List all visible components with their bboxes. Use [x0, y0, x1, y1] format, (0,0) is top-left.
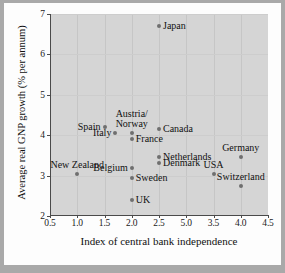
gridline-horizontal	[50, 14, 268, 15]
y-tick-label: 5	[36, 90, 45, 100]
data-point-marker	[157, 24, 161, 28]
data-point-marker	[130, 176, 134, 180]
data-point-marker	[157, 161, 161, 165]
data-point-label: Japan	[163, 21, 186, 31]
data-point-marker	[130, 198, 134, 202]
data-point-marker	[113, 131, 117, 135]
y-tick-mark	[47, 135, 50, 136]
plot-area	[50, 14, 268, 216]
y-tick-label: 6	[36, 49, 45, 59]
gridline-vertical	[186, 14, 187, 216]
data-point-marker	[130, 166, 134, 170]
data-point-label: Sweden	[136, 173, 168, 183]
x-tick-label: 3.5	[208, 218, 219, 228]
gridline-vertical	[214, 14, 215, 216]
data-point-label: Switzerland	[217, 172, 265, 182]
y-tick-label: 7	[36, 9, 45, 19]
x-tick-label: 0.5	[44, 218, 55, 228]
y-tick-label: 2	[36, 211, 45, 221]
data-point-marker	[130, 131, 134, 135]
data-point-label: Germany	[222, 143, 259, 153]
y-tick-mark	[47, 54, 50, 55]
data-point-label: Denmark	[163, 158, 200, 168]
data-point-label: France	[136, 134, 163, 144]
y-tick-mark	[47, 216, 50, 217]
gridline-vertical	[159, 14, 160, 216]
x-tick-label: 1.0	[72, 218, 83, 228]
y-axis-line	[50, 14, 51, 216]
scatter-chart: 0.51.01.52.02.55.03.54.04.5 234567 Japan…	[4, 3, 281, 265]
data-point-label: Canada	[163, 124, 193, 134]
data-point-marker	[130, 137, 134, 141]
data-point-marker	[239, 184, 243, 188]
x-tick-label: 4.0	[235, 218, 246, 228]
data-point-label: New Zealand	[50, 159, 104, 169]
data-point-marker	[239, 155, 243, 159]
figure-panel: 0.51.01.52.02.55.03.54.04.5 234567 Japan…	[4, 3, 281, 265]
data-point-label: Austria/Norway	[116, 109, 148, 129]
x-tick-label: 5.0	[181, 218, 192, 228]
x-axis-title: Index of central bank independence	[50, 235, 268, 247]
x-tick-label: 1.5	[99, 218, 110, 228]
y-tick-mark	[47, 95, 50, 96]
x-tick-label: 2.5	[153, 218, 164, 228]
y-tick-label: 4	[36, 130, 45, 140]
y-tick-mark	[47, 176, 50, 177]
x-tick-label: 4.5	[262, 218, 273, 228]
x-tick-label: 2.0	[126, 218, 137, 228]
y-axis-title: Average real GNP growth (% per annum)	[16, 8, 27, 218]
gridline-vertical	[77, 14, 78, 216]
data-point-marker	[157, 155, 161, 159]
data-point-label: USA	[203, 159, 223, 169]
gridline-horizontal	[50, 54, 268, 55]
y-tick-label: 3	[36, 171, 45, 181]
data-point-label: Italy	[93, 128, 111, 138]
data-point-marker	[75, 172, 79, 176]
data-point-marker	[212, 172, 216, 176]
gridline-horizontal	[50, 95, 268, 96]
data-point-marker	[157, 127, 161, 131]
y-tick-mark	[47, 14, 50, 15]
gridline-vertical	[105, 14, 106, 216]
data-point-label: UK	[136, 195, 150, 205]
